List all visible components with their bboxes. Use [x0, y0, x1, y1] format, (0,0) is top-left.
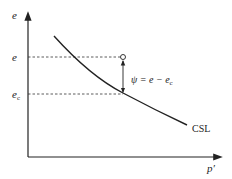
y-axis-label: e	[12, 9, 17, 21]
tick-ec-label: ec	[12, 88, 20, 102]
tick-e-label: e	[12, 51, 17, 63]
csl-diagram: e e ec ψ = e − ec CSL p′	[0, 0, 232, 179]
x-axis-label: p′	[206, 162, 216, 174]
psi-label: ψ = e − ec	[131, 74, 173, 87]
state-point	[121, 55, 126, 60]
csl-label: CSL	[192, 123, 210, 134]
